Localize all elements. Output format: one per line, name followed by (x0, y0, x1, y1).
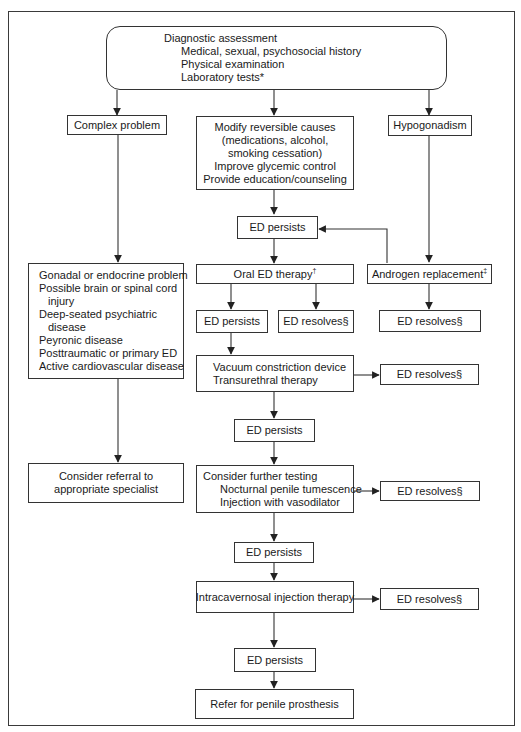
further-testing-box: Consider further testing Nocturnal penil… (196, 465, 354, 513)
footnote-mark: † (312, 267, 316, 274)
ed-persists-box: ED persists (234, 542, 314, 563)
modify-line: Improve glycemic control (214, 160, 336, 173)
condition-item: Peyronic disease (39, 334, 123, 347)
complex-problem-label: Complex problem (74, 119, 160, 132)
intracavernosal-label: Intracavernosal injection therapy (196, 591, 354, 604)
oral-ed-therapy-box: Oral ED therapy† (196, 264, 354, 284)
condition-item: Posttraumatic or primary ED (39, 347, 177, 360)
vacuum-line: Transurethral therapy (213, 374, 318, 387)
ed-persists-label: ED persists (246, 546, 302, 559)
ed-persists-box: ED persists (234, 648, 316, 672)
specialist-referral-box: Consider referral to appropriate special… (28, 463, 184, 503)
prosthesis-label: Refer for penile prosthesis (210, 698, 338, 711)
intracavernosal-injection-box: Intracavernosal injection therapy (196, 581, 354, 613)
referral-line: Consider referral to (59, 470, 153, 483)
complex-conditions-box: Gonadal or endocrine problem Possible br… (28, 263, 184, 379)
assessment-item: Laboratory tests* (164, 71, 264, 84)
ed-resolves-box: ED resolves§ (380, 364, 479, 385)
condition-item: injury (39, 295, 74, 308)
ed-persists-box: ED persists (237, 216, 318, 239)
testing-item: Injection with vasodilator (203, 496, 340, 509)
modify-line: smoking cessation) (228, 147, 322, 160)
ed-resolves-label: ED resolves§ (283, 315, 348, 328)
vacuum-line: Vacuum constriction device (213, 361, 346, 374)
hypogonadism-label: Hypogonadism (393, 119, 466, 132)
condition-item: disease (39, 321, 86, 334)
ed-resolves-label: ED resolves§ (397, 368, 462, 381)
testing-item: Nocturnal penile tumescence (203, 483, 362, 496)
further-testing-title: Consider further testing (203, 470, 317, 483)
ed-resolves-box: ED resolves§ (379, 310, 481, 332)
assessment-item: Physical examination (164, 58, 284, 71)
modify-line: Modify reversible causes (214, 121, 335, 134)
modify-causes-box: Modify reversible causes (medications, a… (196, 116, 354, 190)
footnote-mark: ‡ (483, 267, 487, 274)
ed-persists-label: ED persists (249, 221, 305, 234)
ed-persists-label: ED persists (246, 424, 302, 437)
androgen-replacement-box: Androgen replacement‡ (367, 264, 492, 284)
penile-prosthesis-box: Refer for penile prosthesis (195, 689, 354, 719)
ed-persists-box: ED persists (196, 310, 268, 333)
diagnostic-assessment-box: Diagnostic assessment Medical, sexual, p… (106, 26, 447, 90)
modify-line: Provide education/counseling (203, 173, 347, 186)
oral-ed-therapy-text: Oral ED therapy (234, 268, 313, 280)
oral-ed-therapy-label: Oral ED therapy† (234, 268, 317, 281)
ed-resolves-box: ED resolves§ (380, 481, 480, 501)
condition-item: Possible brain or spinal cord (39, 282, 177, 295)
ed-resolves-box: ED resolves§ (278, 310, 354, 333)
assessment-item: Medical, sexual, psychosocial history (164, 45, 361, 58)
referral-line: appropriate specialist (54, 483, 158, 496)
ed-resolves-box: ED resolves§ (380, 588, 479, 610)
diagnostic-assessment-title: Diagnostic assessment (164, 32, 277, 45)
androgen-replacement-label: Androgen replacement‡ (372, 268, 487, 281)
ed-resolves-label: ED resolves§ (397, 485, 462, 498)
hypogonadism-box: Hypogonadism (388, 115, 472, 136)
ed-persists-label: ED persists (247, 654, 303, 667)
ed-resolves-label: ED resolves§ (397, 315, 462, 328)
ed-resolves-label: ED resolves§ (397, 593, 462, 606)
condition-item: Deep-seated psychiatric (39, 308, 157, 321)
complex-problem-box: Complex problem (67, 115, 167, 135)
vacuum-transurethral-box: Vacuum constriction device Transurethral… (196, 355, 354, 392)
condition-item: Gonadal or endocrine problem (39, 269, 188, 282)
condition-item: Active cardiovascular disease (39, 360, 184, 373)
modify-line: (medications, alcohol, (222, 134, 328, 147)
ed-persists-label: ED persists (204, 315, 260, 328)
ed-persists-box: ED persists (234, 419, 315, 442)
androgen-replacement-text: Androgen replacement (372, 268, 483, 280)
